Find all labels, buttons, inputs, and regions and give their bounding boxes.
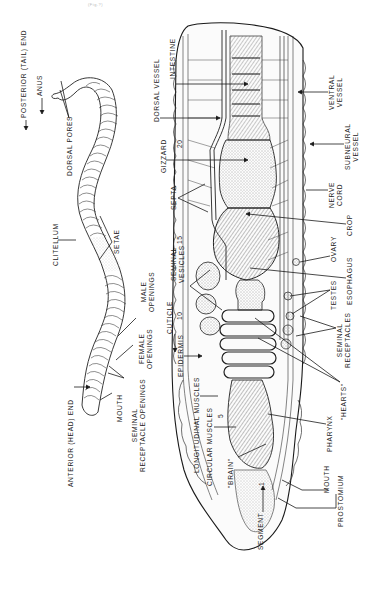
label-esophagus: ESOPHAGUS [346, 257, 354, 305]
diagram-drawing [0, 0, 369, 593]
label-male-openings: MALEOPENINGS [140, 272, 155, 312]
label-female-openings: FEMALEOPENINGS [138, 329, 153, 369]
label-circular-muscles: CIRCULAR MUSCLES [206, 407, 214, 486]
label-clitellum: CLITELLUM [52, 223, 60, 266]
label-setae: SETAE [113, 229, 121, 254]
label-septa: SEPTA [170, 185, 178, 210]
label-seminal-receptacle-openings: SEMINALRECEPTACLE OPENINGS [131, 379, 146, 472]
label-subneural-vessel: SUBNEURALVESSEL [344, 123, 359, 170]
label-ventral-vessel: VENTRALVESSEL [328, 75, 343, 110]
label-anterior-end: ANTERIOR (HEAD) END [67, 399, 75, 487]
label-mouth-external: MOUTH [116, 394, 124, 422]
label-crop: CROP [346, 214, 354, 236]
label-testes: TESTES [330, 280, 338, 310]
earthworm-diagram: (Fig.?) [0, 0, 369, 593]
label-posterior-end: POSTERIOR (TAIL) END [20, 30, 28, 118]
segment-number-10: 10 [176, 311, 184, 320]
label-anus: ANUS [36, 75, 44, 96]
label-intestine: INTESTINE [169, 38, 177, 79]
label-gizzard: GIZZARD [160, 139, 168, 173]
label-pharynx: PHARYNX [326, 415, 334, 452]
gizzard [219, 140, 276, 208]
label-seminal-vesicles: SEMINALVESICLES [170, 245, 185, 283]
label-dorsal-vessel: DORSAL VESSEL [153, 59, 161, 122]
label-dorsal-pores: DORSAL PORES [66, 116, 74, 176]
esophagus [236, 280, 265, 310]
label-segment: SEGMENT [257, 512, 265, 550]
label-brain: "BRAIN" [227, 458, 235, 488]
segment-number-15: 15 [176, 235, 184, 244]
label-cuticle: CUTICLE [166, 301, 174, 334]
label-seminal-receptacles: SEMINALRECEPTACLES [336, 312, 351, 368]
segment-number-5: 5 [217, 414, 225, 418]
label-longitudinal-muscles: LONGITUDINAL MUSCLES [193, 377, 201, 473]
label-prostomium: PROSTOMIUM [337, 475, 345, 527]
segment-number-1: 1 [258, 482, 266, 486]
label-hearts: "HEARTS" [340, 383, 348, 420]
label-mouth-internal: MOUTH [323, 465, 331, 493]
label-epidermis: EPIDERMIS [177, 334, 185, 377]
label-nerve-cord: NERVECORD [328, 182, 343, 208]
segment-number-20: 20 [176, 139, 184, 148]
label-ovary: OVARY [330, 236, 338, 262]
